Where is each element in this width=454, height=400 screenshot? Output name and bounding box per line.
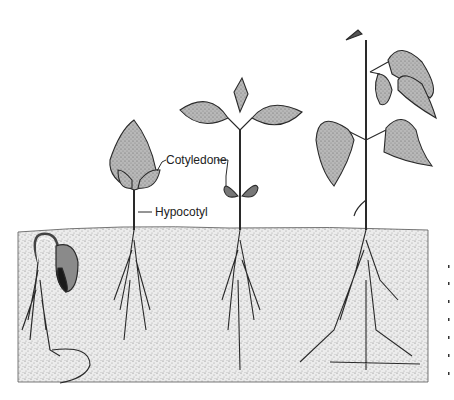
germination-diagram: Cotyledone Hypocotyl	[0, 0, 454, 400]
illustration	[0, 0, 454, 400]
right-edge-marks	[448, 265, 450, 375]
hypocotyl-label: Hypocotyl	[155, 205, 208, 219]
cotyledon-label: Cotyledone	[166, 153, 227, 167]
